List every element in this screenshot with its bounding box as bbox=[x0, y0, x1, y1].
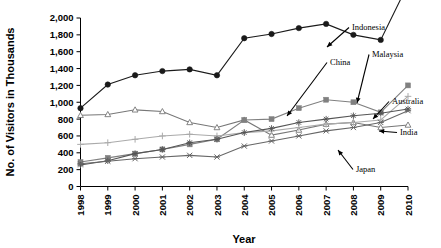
data-point-marker bbox=[77, 141, 84, 148]
data-point-marker bbox=[214, 154, 220, 159]
data-point-marker bbox=[78, 105, 83, 110]
callout-arrow-malaysia bbox=[357, 55, 369, 104]
x-tick-label: 2002 bbox=[184, 195, 195, 216]
x-tick-label: 2010 bbox=[403, 195, 414, 216]
y-tick-label: 200 bbox=[58, 164, 74, 175]
y-tick-label: 400 bbox=[58, 147, 74, 158]
x-tick-label: 2007 bbox=[321, 195, 332, 216]
data-point-marker bbox=[214, 73, 219, 78]
callout-label-australia: Australia bbox=[392, 96, 423, 106]
data-point-marker bbox=[159, 154, 165, 159]
callout-label-indonesia: Indonesia bbox=[352, 22, 385, 32]
data-point-marker bbox=[104, 139, 111, 146]
data-point-marker bbox=[323, 116, 329, 122]
data-point-marker bbox=[268, 138, 274, 143]
x-tick-label: 2003 bbox=[212, 195, 223, 216]
callout-arrow-china bbox=[287, 63, 327, 117]
x-axis-title: Year bbox=[232, 233, 256, 245]
callout-label-japan: Japan bbox=[356, 164, 376, 174]
callout-label-india: India bbox=[400, 127, 418, 137]
x-tick-label: 2009 bbox=[375, 195, 386, 216]
data-point-marker bbox=[324, 97, 329, 102]
data-point-marker bbox=[242, 117, 247, 122]
data-point-marker bbox=[105, 82, 110, 87]
data-point-marker bbox=[323, 128, 329, 133]
y-tick-label: 1,000 bbox=[50, 97, 74, 108]
x-tick-label: 2001 bbox=[157, 194, 168, 216]
data-point-marker bbox=[159, 133, 166, 140]
data-point-marker bbox=[296, 133, 302, 138]
data-point-marker bbox=[268, 125, 274, 131]
y-tick-label: 1,200 bbox=[50, 80, 74, 91]
x-tick-label: 2000 bbox=[130, 195, 141, 216]
x-axis-ticks: 1998199920002001200220032004200520062007… bbox=[75, 187, 414, 216]
data-point-marker bbox=[351, 32, 356, 37]
data-point-marker bbox=[214, 136, 220, 142]
data-point-marker bbox=[350, 113, 356, 119]
y-tick-label: 800 bbox=[58, 114, 74, 125]
data-point-marker bbox=[269, 117, 274, 122]
callout-arrowhead-malaysia bbox=[356, 97, 361, 103]
data-point-marker bbox=[77, 162, 83, 168]
data-point-marker bbox=[159, 146, 165, 152]
callout-label-china: China bbox=[330, 57, 351, 67]
x-tick-label: 1999 bbox=[102, 195, 113, 216]
data-point-marker bbox=[269, 31, 274, 36]
data-point-marker bbox=[241, 129, 247, 135]
data-point-marker bbox=[186, 139, 192, 145]
data-point-marker bbox=[351, 100, 356, 105]
series-india bbox=[77, 106, 411, 168]
data-point-marker bbox=[296, 119, 302, 125]
y-tick-label: 600 bbox=[58, 130, 74, 141]
data-point-marker bbox=[378, 37, 383, 42]
y-tick-label: 1,600 bbox=[50, 46, 74, 57]
data-point-marker bbox=[132, 73, 137, 78]
x-tick-label: 2004 bbox=[239, 194, 250, 216]
callout-annotations: IndonesiaChinaMalaysiaAustraliaIndiaJapa… bbox=[287, 22, 423, 174]
y-axis-ticks: 02004006008001,0001,2001,4001,6001,8002,… bbox=[50, 12, 81, 192]
data-point-marker bbox=[323, 21, 328, 26]
callout-label-malaysia: Malaysia bbox=[372, 49, 403, 59]
series-line bbox=[81, 0, 409, 108]
data-point-marker bbox=[160, 68, 165, 73]
data-point-marker bbox=[187, 153, 193, 158]
data-point-marker bbox=[241, 143, 247, 148]
data-point-marker bbox=[132, 156, 138, 161]
x-tick-label: 2008 bbox=[348, 195, 359, 216]
data-point-marker bbox=[296, 25, 301, 30]
data-point-marker bbox=[186, 131, 193, 138]
y-tick-label: 1,400 bbox=[50, 63, 74, 74]
chart-canvas: 02004006008001,0001,2001,4001,6001,8002,… bbox=[0, 0, 441, 248]
y-axis-title: No. of Visitors in Thousands bbox=[4, 28, 16, 177]
data-point-marker bbox=[187, 67, 192, 72]
data-point-marker bbox=[132, 136, 139, 143]
x-tick-label: 2005 bbox=[266, 194, 277, 216]
y-tick-label: 0 bbox=[68, 181, 73, 192]
data-point-marker bbox=[242, 36, 247, 41]
y-tick-label: 2,000 bbox=[50, 12, 74, 23]
data-point-marker bbox=[296, 106, 301, 111]
x-tick-label: 2006 bbox=[293, 195, 304, 216]
series-china bbox=[78, 0, 408, 111]
y-tick-label: 1,800 bbox=[50, 29, 74, 40]
visitors-line-chart: 02004006008001,0001,2001,4001,6001,8002,… bbox=[0, 0, 441, 248]
data-point-marker bbox=[406, 83, 411, 88]
x-tick-label: 1998 bbox=[75, 195, 86, 216]
